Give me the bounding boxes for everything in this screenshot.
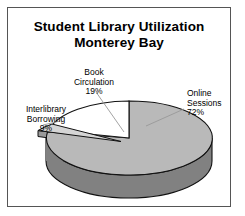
slice-label-interlibrary-borrowing-value: 9% [14, 124, 78, 134]
chart-frame: Student Library Utilization Monterey Bay… [7, 7, 231, 207]
slice-label-book-circulation-value: 19% [60, 87, 128, 97]
slice-label-interlibrary-borrowing: Interlibrary Borrowing 9% [14, 105, 78, 134]
slice-label-online-sessions-value: 72% [187, 108, 245, 118]
slice-label-book-circulation: Book Circulation 19% [60, 68, 128, 97]
slice-label-online-sessions: Online Sessions 72% [187, 89, 245, 118]
